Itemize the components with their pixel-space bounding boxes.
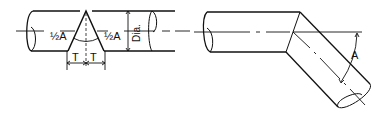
left-view bbox=[16, 11, 190, 70]
right-view bbox=[194, 12, 371, 108]
half-angle-left-label: ½A bbox=[50, 30, 67, 42]
t-right-label: T bbox=[90, 51, 97, 63]
mitre-joint-diagram: ½A ½A Dia. T T A bbox=[0, 0, 388, 114]
t-left-label: T bbox=[72, 51, 79, 63]
half-angle-right-label: ½A bbox=[104, 30, 121, 42]
diameter-label: Dia. bbox=[131, 24, 142, 42]
angle-label: A bbox=[351, 49, 359, 61]
